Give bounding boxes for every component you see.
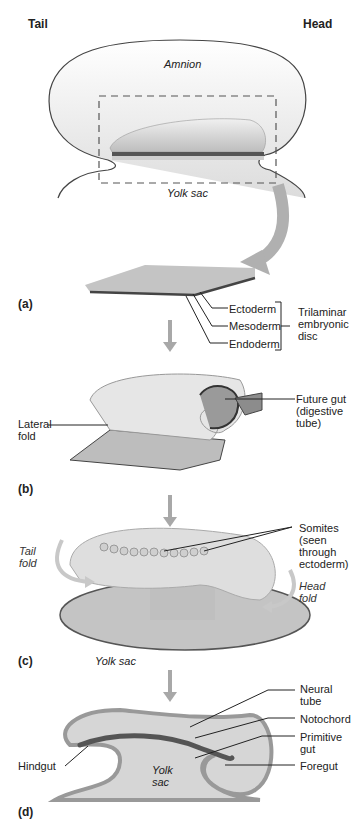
ectoderm-label: Ectoderm: [229, 303, 276, 315]
trilaminar-label: Trilaminarembryonicdisc: [298, 306, 349, 342]
endoderm-label: Endoderm: [229, 338, 280, 350]
future-gut-label: Future gut(digestivetube): [296, 393, 346, 429]
somites-label: Somites(seenthroughectoderm): [299, 522, 349, 570]
primitive-gut-label: Primitivegut: [300, 731, 342, 755]
lateral-fold-label: Lateralfold: [18, 418, 52, 442]
panel-b-tag: (b): [18, 483, 33, 495]
head-orientation-label: Head: [303, 18, 332, 30]
tail-orientation-label: Tail: [28, 18, 48, 30]
neural-tube-label: Neuraltube: [300, 683, 332, 707]
notochord-label: Notochord: [300, 713, 351, 725]
lateral-folding: [48, 374, 295, 527]
panel-c-tag: (c): [18, 655, 33, 667]
panel-a-tag: (a): [18, 298, 33, 310]
sagittal-section: [55, 690, 295, 800]
amnion-label: Amnion: [164, 58, 201, 70]
head-fold-label: Headfold: [299, 580, 325, 604]
panel-d-tag: (d): [18, 806, 33, 818]
foregut-label: Foregut: [300, 760, 338, 772]
mesoderm-label: Mesoderm: [229, 320, 281, 332]
yolk-sac-d-label: Yolksac: [152, 764, 173, 788]
head-tail-folding: [57, 527, 310, 702]
tail-fold-label: Tailfold: [19, 545, 37, 569]
amnion-overview: [49, 40, 306, 275]
yolk-sac-c-label: Yolk sac: [95, 655, 136, 667]
yolk-sac-top-label: Yolk sac: [167, 187, 208, 199]
hindgut-label: Hindgut: [18, 760, 56, 772]
